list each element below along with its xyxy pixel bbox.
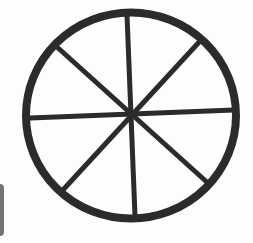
wheel-icon <box>0 0 253 243</box>
edge-bar <box>0 184 4 236</box>
wheel-hub <box>127 110 135 118</box>
image-canvas <box>0 0 253 243</box>
